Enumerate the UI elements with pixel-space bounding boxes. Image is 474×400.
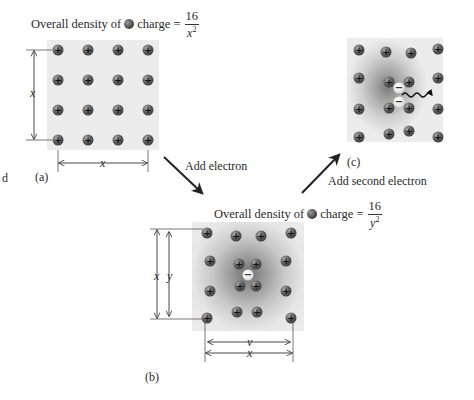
- panel-a-width-label: x: [98, 156, 107, 171]
- panel-c-label: (c): [347, 155, 360, 170]
- positive-ion-icon: +: [252, 307, 263, 318]
- positive-ion-icon: +: [406, 48, 417, 59]
- positive-ion-icon: +: [205, 256, 216, 267]
- denominator-exponent: 2: [375, 215, 379, 224]
- panel-a-label: (a): [35, 170, 48, 185]
- positive-ion-icon: +: [354, 73, 365, 84]
- positive-ion-icon: +: [202, 228, 213, 239]
- positive-ion-icon: +: [143, 135, 154, 146]
- density-fraction: 16 y2: [368, 200, 383, 229]
- edge-text-fragment: d: [2, 171, 8, 186]
- positive-ion-icon: +: [256, 231, 267, 242]
- positive-ion-icon: +: [205, 286, 216, 297]
- positive-ion-icon: +: [281, 286, 292, 297]
- positive-ion-icon: +: [404, 103, 415, 114]
- positive-ion-icon: +: [433, 104, 444, 115]
- title-suffix: charge =: [137, 17, 180, 32]
- positive-ion-icon: +: [113, 105, 124, 116]
- positive-ion-icon: +: [433, 132, 444, 143]
- positive-ion-icon: +: [143, 45, 154, 56]
- positive-ion-icon: +: [83, 135, 94, 146]
- positive-charge-icon: [124, 19, 134, 29]
- positive-charge-icon: [307, 209, 317, 219]
- positive-ion-icon: +: [286, 228, 297, 239]
- positive-ion-icon: +: [113, 135, 124, 146]
- fraction-denominator: y2: [370, 215, 379, 229]
- positive-ion-icon: +: [231, 231, 242, 242]
- positive-ion-icon: +: [143, 105, 154, 116]
- positive-ion-icon: +: [354, 132, 365, 143]
- panel-b-outer-width-label: x: [245, 346, 254, 361]
- positive-ion-icon: +: [83, 75, 94, 86]
- positive-ion-icon: +: [433, 73, 444, 84]
- panel-a-density-title: Overall density of charge = 16 x2: [31, 10, 199, 39]
- positive-ion-icon: +: [354, 45, 365, 56]
- positive-ion-icon: +: [251, 281, 262, 292]
- panel-a-height-label: x: [29, 86, 36, 101]
- positive-ion-icon: +: [433, 44, 444, 55]
- fraction-numerator: 16: [368, 200, 383, 215]
- positive-ion-icon: +: [235, 281, 246, 292]
- positive-ion-icon: +: [143, 75, 154, 86]
- panel-a-lattice: [47, 40, 159, 150]
- electron-icon: −: [394, 83, 405, 94]
- positive-ion-icon: +: [281, 256, 292, 267]
- fraction-denominator: x2: [187, 25, 196, 39]
- positive-ion-icon: +: [83, 105, 94, 116]
- positive-ion-icon: +: [113, 45, 124, 56]
- density-fraction: 16 x2: [185, 10, 200, 39]
- positive-ion-icon: +: [53, 135, 64, 146]
- positive-ion-icon: +: [232, 307, 243, 318]
- panel-b-label: (b): [145, 370, 159, 385]
- electron-icon: −: [394, 97, 405, 108]
- title-prefix: Overall density of: [31, 17, 121, 32]
- title-prefix: Overall density of: [214, 207, 304, 222]
- add-electron-label: Add electron: [185, 159, 247, 174]
- positive-ion-icon: +: [83, 45, 94, 56]
- add-second-electron-label: Add second electron: [328, 174, 427, 189]
- positive-ion-icon: +: [354, 104, 365, 115]
- positive-ion-icon: +: [384, 129, 395, 140]
- panel-b-inner-height-label: y: [166, 269, 173, 284]
- positive-ion-icon: +: [286, 313, 297, 324]
- positive-ion-icon: +: [381, 47, 392, 58]
- panel-b-outer-height-label: x: [153, 269, 160, 284]
- positive-ion-icon: +: [113, 75, 124, 86]
- positive-ion-icon: +: [404, 126, 415, 137]
- positive-ion-icon: +: [53, 105, 64, 116]
- positive-ion-icon: +: [384, 103, 395, 114]
- electron-icon: −: [243, 270, 254, 281]
- title-suffix: charge =: [320, 207, 363, 222]
- positive-ion-icon: +: [404, 77, 415, 88]
- positive-ion-icon: +: [202, 313, 213, 324]
- fraction-numerator: 16: [185, 10, 200, 25]
- positive-ion-icon: +: [53, 75, 64, 86]
- denominator-exponent: 2: [192, 25, 196, 34]
- positive-ion-icon: +: [53, 45, 64, 56]
